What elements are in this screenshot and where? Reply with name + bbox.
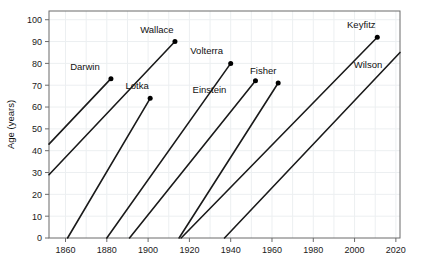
- y-axis-tick-label: 60: [32, 102, 42, 112]
- series-label-wallace: Wallace: [140, 24, 173, 35]
- y-axis-tick-label: 30: [32, 168, 42, 178]
- death-point-darwin[interactable]: [108, 76, 113, 81]
- lifespan-line-chart: 1860188019001920194019601980200020200102…: [0, 0, 422, 270]
- x-axis-tick-label: 2020: [386, 245, 406, 255]
- plot-frame: [49, 11, 400, 238]
- x-axis-tick-label: 1940: [221, 245, 241, 255]
- y-axis-title: Age (years): [5, 100, 16, 149]
- x-axis-tick-label: 1880: [97, 245, 117, 255]
- lifespan-line-darwin[interactable]: [49, 79, 111, 144]
- x-axis-tick-label: 1900: [138, 245, 158, 255]
- series-label-einstein: Einstein: [193, 84, 227, 95]
- y-axis-tick-label: 100: [27, 15, 42, 25]
- lifespan-line-fisher[interactable]: [179, 83, 278, 238]
- y-axis-tick-label: 10: [32, 212, 42, 222]
- y-axis-tick-label: 0: [37, 233, 42, 243]
- series-label-wilson: Wilson: [354, 59, 383, 70]
- death-point-wallace[interactable]: [172, 39, 177, 44]
- death-point-fisher[interactable]: [276, 81, 281, 86]
- series-label-lotka: Lotka: [126, 80, 150, 91]
- x-axis-tick-label: 1920: [179, 245, 199, 255]
- y-axis-tick-label: 40: [32, 146, 42, 156]
- series-label-darwin: Darwin: [70, 61, 100, 72]
- y-axis-tick-label: 80: [32, 59, 42, 69]
- lifespan-line-lotka[interactable]: [68, 98, 151, 238]
- series-label-volterra: Volterra: [190, 45, 223, 56]
- x-axis-tick-label: 1860: [56, 245, 76, 255]
- death-point-keyfitz[interactable]: [375, 35, 380, 40]
- x-axis-tick-label: 2000: [345, 245, 365, 255]
- death-point-einstein[interactable]: [253, 78, 258, 83]
- x-axis-tick-label: 1980: [303, 245, 323, 255]
- series-label-keyfitz: Keyfitz: [347, 19, 376, 30]
- series-label-fisher: Fisher: [250, 65, 276, 76]
- lifespan-line-wilson[interactable]: [225, 52, 401, 238]
- x-axis-tick-label: 1960: [262, 245, 282, 255]
- y-axis-tick-label: 90: [32, 37, 42, 47]
- y-axis-tick-label: 50: [32, 124, 42, 134]
- y-axis-tick-label: 20: [32, 190, 42, 200]
- death-point-lotka[interactable]: [148, 96, 153, 101]
- death-point-volterra[interactable]: [228, 61, 233, 66]
- lifespan-line-wallace[interactable]: [49, 42, 175, 175]
- chart-container: 1860188019001920194019601980200020200102…: [0, 0, 422, 270]
- y-axis-tick-label: 70: [32, 81, 42, 91]
